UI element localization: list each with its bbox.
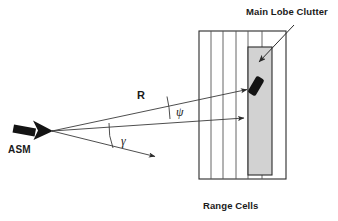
range-cells-label: Range Cells [203, 200, 258, 211]
asm-body [13, 125, 37, 137]
range-cells-grid [199, 31, 286, 179]
range-label: R [137, 89, 145, 101]
clutter-rect [248, 47, 272, 175]
depression-angle-label: ψ [176, 105, 184, 119]
range-cells-outer-box [199, 31, 286, 179]
main-lobe-clutter-patch [248, 47, 272, 175]
main-lobe-clutter-label: Main Lobe Clutter [246, 6, 328, 17]
diagram-canvas: Main Lobe Clutter Range Cells ASM R ψ γ [0, 0, 338, 221]
asm-label: ASM [8, 144, 31, 155]
grazing-angle-label: γ [121, 134, 126, 148]
asm-arrowhead-icon [33, 121, 53, 141]
beam-rays [52, 90, 247, 157]
radar-geometry-diagram: Main Lobe Clutter Range Cells ASM R ψ γ [0, 0, 338, 221]
asm-emitter [13, 121, 54, 141]
lower-beam-ray [52, 131, 155, 157]
angle-arcs [109, 97, 170, 149]
psi-angle-arc [167, 97, 170, 120]
